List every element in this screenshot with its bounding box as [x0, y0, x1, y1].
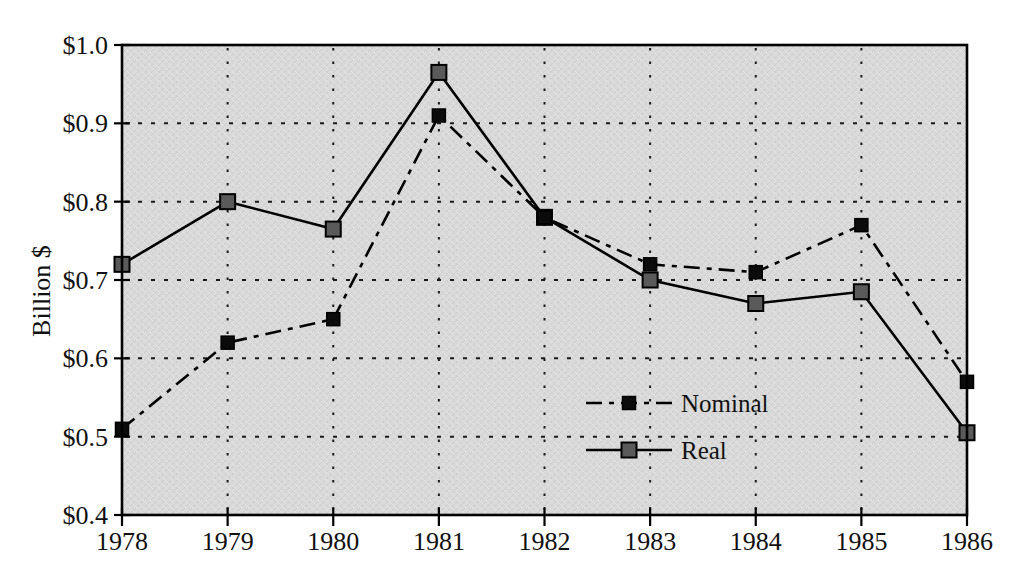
x-tick-label: 1981 — [413, 527, 465, 556]
y-tick-label: $0.8 — [63, 188, 109, 217]
x-tick-label: 1979 — [202, 527, 254, 556]
marker-nominal-1982 — [538, 211, 551, 224]
marker-nominal-1984 — [749, 266, 762, 279]
y-tick-label: $0.6 — [63, 344, 109, 373]
y-tick-label: $1.0 — [63, 31, 109, 60]
real-legend-marker — [622, 443, 637, 458]
x-tick-label: 1985 — [835, 527, 887, 556]
marker-real-1983 — [643, 273, 658, 288]
marker-nominal-1981 — [432, 109, 445, 122]
y-tick-label: $0.7 — [63, 266, 109, 295]
y-tick-label: $0.9 — [63, 109, 109, 138]
x-tick-label: 1983 — [624, 527, 676, 556]
chart-figure: $1.0$0.9$0.8$0.7$0.6$0.5$0.4197819791980… — [0, 0, 1026, 580]
marker-nominal-1980 — [327, 313, 340, 326]
nominal-legend-marker — [623, 397, 636, 410]
marker-real-1979 — [220, 194, 235, 209]
marker-nominal-1979 — [221, 336, 234, 349]
marker-real-1980 — [326, 222, 341, 237]
x-tick-label: 1980 — [307, 527, 359, 556]
marker-real-1984 — [748, 296, 763, 311]
x-tick-label: 1982 — [519, 527, 571, 556]
y-tick-label: $0.4 — [63, 501, 109, 530]
legend-label-real: Real — [681, 437, 727, 464]
x-tick-label: 1986 — [941, 527, 993, 556]
y-axis-title: Billion $ — [27, 245, 56, 337]
x-tick-label: 1978 — [96, 527, 148, 556]
y-tick-label: $0.5 — [63, 423, 109, 452]
marker-real-1985 — [854, 284, 869, 299]
marker-nominal-1983 — [644, 258, 657, 271]
legend-label-nominal: Nominal — [681, 390, 769, 417]
marker-nominal-1985 — [855, 219, 868, 232]
marker-real-1981 — [431, 65, 446, 80]
line-chart: $1.0$0.9$0.8$0.7$0.6$0.5$0.4197819791980… — [0, 0, 1026, 580]
x-tick-label: 1984 — [730, 527, 782, 556]
